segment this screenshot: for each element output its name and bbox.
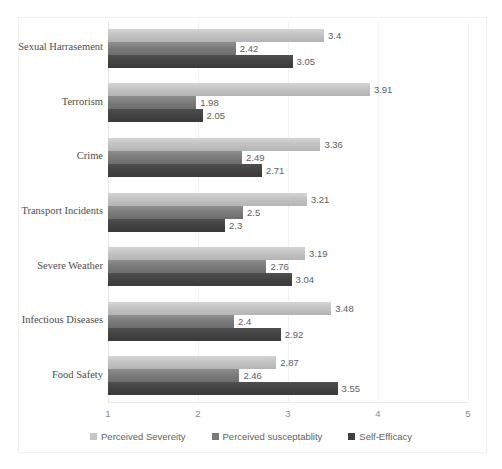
bar (108, 55, 293, 68)
bar-value-label: 3.91 (374, 83, 393, 96)
bar (108, 193, 307, 206)
bar (108, 109, 203, 122)
bar (108, 83, 370, 96)
bar-value-label: 2.76 (270, 260, 289, 273)
axis-tick-label: 2 (195, 408, 200, 419)
category-label: Transport Incidents (21, 205, 103, 216)
axis-tick-label: 5 (465, 408, 470, 419)
legend-swatch-icon (348, 433, 355, 440)
bar-group: 3.911.982.05 (108, 83, 468, 122)
bar-value-label: 2.4 (238, 315, 251, 328)
bar-value-label: 2.49 (246, 151, 265, 164)
category-label: Severe Weather (37, 260, 103, 271)
legend-item[interactable]: Perceived susceptablity (212, 431, 323, 442)
bar-group: 3.482.42.92 (108, 302, 468, 341)
category-label: Terrorism (62, 96, 103, 107)
bar-group: 3.42.423.05 (108, 29, 468, 68)
bar-value-label: 2.87 (280, 356, 299, 369)
bar-value-label: 2.92 (285, 328, 304, 341)
value-axis-ticks: 12345 (0, 408, 502, 422)
bar-value-label: 1.98 (200, 96, 219, 109)
legend-label: Self-Efficacy (359, 431, 412, 442)
bar (108, 138, 320, 151)
bar-value-label: 2.42 (240, 42, 259, 55)
bar (108, 247, 305, 260)
bar-group: 3.362.492.71 (108, 138, 468, 177)
category-label: Crime (77, 150, 103, 161)
bar (108, 96, 196, 109)
legend-item[interactable]: Self-Efficacy (348, 431, 412, 442)
bar (108, 328, 281, 341)
bar (108, 151, 242, 164)
legend-label: Perceived Severeity (101, 431, 185, 442)
bar (108, 206, 243, 219)
bar (108, 219, 225, 232)
axis-tick-label: 1 (105, 408, 110, 419)
bar-value-label: 3.4 (328, 29, 341, 42)
bar-value-label: 2.5 (247, 206, 260, 219)
chart-figure: Sexual HarrasementTerrorismCrimeTranspor… (0, 0, 502, 469)
gridline (468, 21, 469, 403)
bar-value-label: 3.48 (335, 302, 354, 315)
bar (108, 273, 292, 286)
bar (108, 29, 324, 42)
legend-label: Perceived susceptablity (223, 431, 323, 442)
plot-area: 3.42.423.053.911.982.053.362.492.713.212… (108, 21, 468, 403)
bar-value-label: 2.71 (266, 164, 285, 177)
category-label: Sexual Harrasement (18, 41, 103, 52)
bar-value-label: 3.19 (309, 247, 328, 260)
bar (108, 382, 338, 395)
bar (108, 302, 331, 315)
bar-value-label: 3.36 (324, 138, 343, 151)
legend-swatch-icon (90, 433, 97, 440)
bar-value-label: 3.05 (297, 55, 316, 68)
bar-group: 3.212.52.3 (108, 193, 468, 232)
bar-value-label: 2.05 (207, 109, 226, 122)
legend-item[interactable]: Perceived Severeity (90, 431, 185, 442)
category-label: Infectious Diseases (22, 314, 103, 325)
category-axis-labels: Sexual HarrasementTerrorismCrimeTranspor… (0, 21, 103, 403)
chart-legend: Perceived SevereityPerceived susceptabli… (0, 428, 502, 444)
bar (108, 164, 262, 177)
bar-value-label: 3.04 (296, 273, 315, 286)
bar-value-label: 2.3 (229, 219, 242, 232)
category-label: Food Safety (52, 369, 103, 380)
bar-group: 2.872.463.55 (108, 356, 468, 395)
axis-tick-label: 3 (285, 408, 290, 419)
bar (108, 260, 266, 273)
bar-value-label: 3.55 (342, 382, 361, 395)
bar-value-label: 2.46 (243, 369, 262, 382)
bar-value-label: 3.21 (311, 193, 330, 206)
bar-group: 3.192.763.04 (108, 247, 468, 286)
bar (108, 42, 236, 55)
bar (108, 315, 234, 328)
legend-swatch-icon (212, 433, 219, 440)
bar (108, 356, 276, 369)
bar (108, 369, 239, 382)
axis-tick-label: 4 (375, 408, 380, 419)
